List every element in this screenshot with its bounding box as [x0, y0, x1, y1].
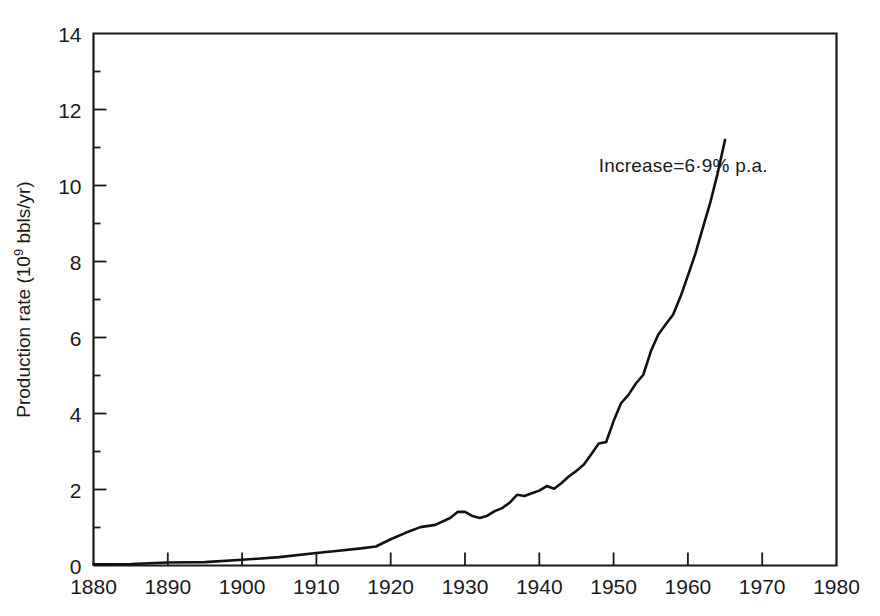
- x-tick-label: 1920: [367, 575, 414, 598]
- x-tick-label: 1940: [516, 575, 563, 598]
- x-tick-label: 1880: [70, 575, 117, 598]
- y-tick-label: 8: [70, 251, 82, 274]
- axis-frame: [94, 34, 837, 566]
- x-tick-label: 1930: [442, 575, 489, 598]
- growth-rate-annotation: Increase=6·9% p.a.: [599, 155, 768, 176]
- production-rate-chart-figure: 1880189019001910192019301940195019601970…: [0, 0, 880, 616]
- chart-canvas: 1880189019001910192019301940195019601970…: [0, 0, 880, 616]
- x-tick-label: 1950: [590, 575, 637, 598]
- x-tick-label: 1980: [813, 575, 860, 598]
- y-axis-tick-labels: 02468101214: [58, 23, 82, 578]
- y-axis-title-group: Production rate (109 bbls/yr): [11, 181, 34, 417]
- x-tick-label: 1960: [665, 575, 712, 598]
- y-tick-label: 12: [58, 99, 81, 122]
- y-tick-label: 6: [70, 327, 82, 350]
- annotations-group: Increase=6·9% p.a.: [599, 155, 768, 176]
- y-tick-label: 10: [58, 175, 81, 198]
- y-axis-ticks: [94, 72, 107, 528]
- production-rate-curve: [94, 140, 726, 564]
- y-tick-label: 4: [70, 403, 82, 426]
- x-axis-tick-labels: 1880189019001910192019301940195019601970…: [70, 575, 860, 598]
- x-tick-label: 1970: [739, 575, 786, 598]
- y-tick-label: 0: [70, 555, 82, 578]
- x-tick-label: 1910: [293, 575, 340, 598]
- data-series-group: [94, 140, 726, 564]
- axes: [94, 34, 837, 566]
- x-tick-label: 1900: [219, 575, 266, 598]
- y-tick-label: 2: [70, 479, 82, 502]
- y-axis-title: Production rate (109 bbls/yr): [11, 181, 34, 417]
- y-tick-label: 14: [58, 23, 82, 46]
- x-tick-label: 1890: [144, 575, 191, 598]
